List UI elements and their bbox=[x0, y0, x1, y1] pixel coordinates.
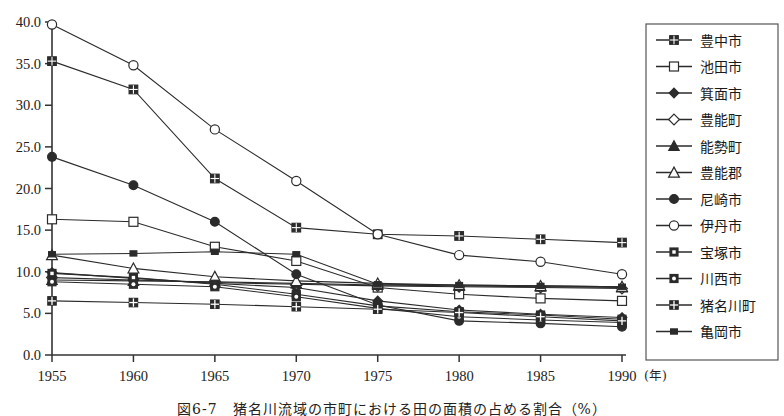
m bbox=[373, 230, 382, 239]
data-point-marker bbox=[669, 88, 679, 98]
legend-item-4[interactable]: 能勢町 bbox=[656, 139, 742, 155]
data-point-marker bbox=[669, 221, 678, 230]
y-tick-label: 35.0 bbox=[16, 56, 41, 72]
x-axis-unit-label: (年) bbox=[644, 368, 667, 383]
m bbox=[129, 61, 138, 70]
data-point-marker bbox=[210, 217, 219, 226]
legend-label: 川西市 bbox=[700, 271, 742, 287]
legend-item-0[interactable]: 豊中市 bbox=[656, 33, 742, 49]
x-tick-label: 1960 bbox=[119, 368, 148, 384]
x-tick-label: 1955 bbox=[38, 368, 67, 384]
m bbox=[669, 114, 680, 125]
legend-item-3[interactable]: 豊能町 bbox=[656, 112, 742, 128]
data-point-marker bbox=[618, 296, 627, 305]
y-tick-label: 10.0 bbox=[16, 264, 41, 280]
legend-label: 池田市 bbox=[700, 59, 742, 75]
legend-label: 伊丹市 bbox=[700, 218, 742, 234]
data-point-marker bbox=[292, 176, 301, 185]
legend-label: 豊能郡 bbox=[700, 165, 742, 181]
m bbox=[50, 280, 54, 284]
legend-item-1[interactable]: 池田市 bbox=[656, 59, 742, 75]
m bbox=[456, 282, 463, 287]
m bbox=[374, 282, 381, 287]
data-point-marker bbox=[536, 313, 544, 321]
legend-item-11[interactable]: 亀岡市 bbox=[656, 324, 742, 340]
legend-item-8[interactable]: 宝塚市 bbox=[656, 245, 742, 261]
y-tick-label: 0.0 bbox=[23, 347, 41, 363]
m bbox=[48, 152, 57, 161]
m bbox=[50, 272, 53, 275]
x-tick-label: 1985 bbox=[526, 368, 555, 384]
x-tick-label: 1990 bbox=[608, 368, 637, 384]
data-point-marker bbox=[48, 278, 56, 286]
m bbox=[129, 217, 138, 226]
legend-item-10[interactable]: 猪名川町 bbox=[656, 298, 756, 314]
legend-item-9[interactable]: 川西市 bbox=[656, 271, 742, 287]
figure-container: 0.05.010.015.020.025.030.035.040.0195519… bbox=[0, 0, 784, 416]
m bbox=[292, 256, 301, 265]
data-point-marker bbox=[293, 252, 300, 257]
m bbox=[210, 125, 219, 134]
m bbox=[672, 250, 675, 253]
x-tick-label: 1965 bbox=[200, 368, 229, 384]
legend-item-5[interactable]: 豊能郡 bbox=[656, 165, 742, 181]
x-tick-label: 1970 bbox=[282, 368, 311, 384]
x-tick-label: 1980 bbox=[445, 368, 474, 384]
m bbox=[132, 276, 135, 279]
y-tick-label: 25.0 bbox=[16, 139, 41, 155]
data-point-marker bbox=[670, 301, 678, 309]
m bbox=[48, 215, 57, 224]
data-point-marker bbox=[618, 238, 627, 247]
data-point-marker bbox=[129, 85, 138, 94]
data-point-marker bbox=[455, 308, 463, 316]
data-point-marker bbox=[670, 36, 679, 45]
m bbox=[669, 88, 679, 98]
x-tick-label: 1975 bbox=[363, 368, 392, 384]
data-point-marker bbox=[670, 248, 678, 256]
data-point-marker bbox=[671, 329, 678, 334]
data-point-marker bbox=[619, 284, 626, 289]
data-point-marker bbox=[130, 251, 137, 256]
m bbox=[294, 295, 298, 299]
m bbox=[130, 251, 137, 256]
data-point-marker bbox=[48, 297, 56, 305]
data-point-marker bbox=[129, 61, 138, 70]
data-point-marker bbox=[536, 294, 545, 303]
data-point-marker bbox=[536, 235, 545, 244]
m bbox=[213, 285, 217, 289]
data-point-marker bbox=[670, 195, 679, 204]
data-point-marker bbox=[292, 303, 300, 311]
data-point-marker bbox=[455, 251, 464, 260]
legend-label: 尼崎市 bbox=[700, 192, 742, 208]
legend-label: 豊能町 bbox=[700, 112, 742, 128]
data-point-marker bbox=[373, 230, 382, 239]
m bbox=[210, 217, 219, 226]
legend-label: 亀岡市 bbox=[700, 324, 742, 340]
m bbox=[292, 270, 301, 279]
m bbox=[617, 270, 626, 279]
legend-label: 豊中市 bbox=[700, 33, 742, 49]
data-point-marker bbox=[211, 249, 218, 254]
legend-item-6[interactable]: 尼崎市 bbox=[656, 192, 742, 208]
data-point-marker bbox=[211, 300, 219, 308]
m bbox=[669, 221, 678, 230]
data-point-marker bbox=[211, 283, 219, 291]
m bbox=[670, 195, 679, 204]
data-point-marker bbox=[48, 215, 57, 224]
m bbox=[619, 284, 626, 289]
data-point-marker bbox=[618, 317, 626, 325]
y-tick-label: 30.0 bbox=[16, 97, 41, 113]
legend-item-2[interactable]: 箕面市 bbox=[656, 86, 742, 102]
m bbox=[536, 294, 545, 303]
legend-item-7[interactable]: 伊丹市 bbox=[656, 218, 742, 234]
data-point-marker bbox=[456, 282, 463, 287]
m bbox=[455, 251, 464, 260]
m bbox=[671, 329, 678, 334]
legend-label: 箕面市 bbox=[700, 86, 742, 102]
y-tick-label: 20.0 bbox=[16, 181, 41, 197]
m bbox=[293, 252, 300, 257]
m bbox=[211, 249, 218, 254]
m bbox=[537, 283, 544, 288]
m bbox=[536, 257, 545, 266]
data-point-marker bbox=[455, 232, 464, 241]
